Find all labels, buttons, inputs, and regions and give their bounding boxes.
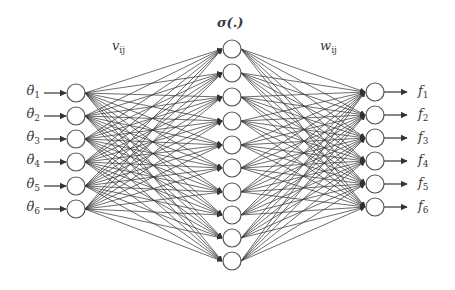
hidden-neuron (223, 64, 241, 82)
input-label: θ̈3 (10, 130, 40, 146)
output-neuron (366, 152, 384, 170)
output-layer (366, 83, 384, 216)
input-label: θ̈6 (10, 200, 40, 216)
input-label: θ̈5 (10, 177, 40, 193)
hidden-neuron (223, 136, 241, 154)
output-label: f1 (418, 84, 429, 100)
weight-subscript: ij (331, 45, 337, 55)
hidden-neuron (223, 252, 241, 270)
input-hidden-connections (85, 49, 222, 261)
input-neuron (67, 200, 85, 218)
weight-symbol: w (320, 38, 331, 53)
output-neuron (366, 175, 384, 193)
hidden-layer (223, 40, 241, 270)
label-subscript: 1 (423, 90, 429, 100)
label-subscript: 4 (34, 159, 40, 169)
connection-line (241, 49, 365, 92)
neural-network-diagram (0, 0, 455, 290)
hidden-neuron (223, 206, 241, 224)
label-subscript: 2 (423, 113, 429, 123)
label-subscript: 5 (423, 182, 429, 192)
output-neuron (366, 83, 384, 101)
input-hidden-weight-label: vij (112, 39, 125, 55)
hidden-neuron (223, 183, 241, 201)
label-subscript: 3 (34, 136, 40, 146)
output-neuron (366, 106, 384, 124)
input-neuron (67, 130, 85, 148)
weight-subscript: ij (119, 45, 125, 55)
output-neuron (366, 198, 384, 216)
output-label: f3 (418, 130, 429, 146)
connection-line (85, 209, 222, 215)
hidden-output-weight-label: wij (320, 39, 337, 55)
label-subscript: 2 (34, 113, 40, 123)
label-subscript: 5 (34, 183, 40, 193)
input-neuron (67, 84, 85, 102)
input-label: θ̈1 (10, 84, 40, 100)
output-label: f6 (418, 199, 429, 215)
input-arrows (44, 93, 66, 209)
label-subscript: 3 (423, 136, 429, 146)
input-layer (67, 84, 85, 218)
output-label: f5 (418, 176, 429, 192)
hidden-neuron (223, 229, 241, 247)
activation-function-label: σ(.) (217, 16, 243, 29)
output-label: f4 (418, 153, 429, 169)
label-subscript: 1 (34, 90, 40, 100)
input-neuron (67, 153, 85, 171)
input-neuron (67, 107, 85, 125)
label-subscript: 6 (34, 206, 40, 216)
label-subscript: 6 (423, 205, 429, 215)
connection-line (241, 73, 365, 115)
output-arrows (384, 92, 407, 207)
input-neuron (67, 177, 85, 195)
output-neuron (366, 129, 384, 147)
connection-line (241, 207, 365, 261)
hidden-neuron (223, 112, 241, 130)
hidden-neuron (223, 40, 241, 58)
label-subscript: 4 (423, 159, 429, 169)
input-label: θ̈4 (10, 153, 40, 169)
connection-line (85, 97, 222, 209)
hidden-neuron (223, 88, 241, 106)
output-label: f2 (418, 107, 429, 123)
hidden-output-connections (241, 49, 365, 261)
input-label: θ̈2 (10, 107, 40, 123)
hidden-neuron (223, 159, 241, 177)
